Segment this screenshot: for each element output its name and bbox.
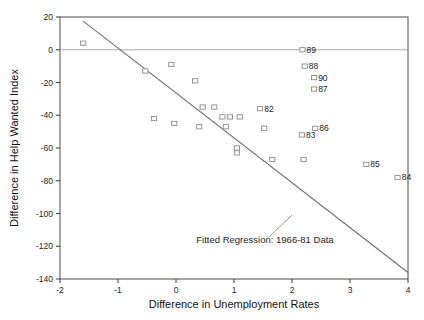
y-tick-label: -100	[36, 209, 53, 219]
y-tick-label: 0	[48, 45, 53, 55]
y-tick-label: -40	[41, 110, 54, 120]
data-point-marker	[220, 115, 225, 119]
data-point-label: 87	[318, 84, 328, 94]
data-point-marker	[169, 62, 174, 66]
y-tick-label: -60	[41, 143, 54, 153]
x-tick-label: 4	[406, 285, 411, 295]
data-point-label: 85	[370, 159, 380, 169]
data-point-marker	[299, 133, 304, 137]
data-point-marker	[237, 115, 242, 119]
x-tick-label: -1	[114, 285, 122, 295]
data-point-marker	[302, 64, 307, 68]
chart-background	[0, 0, 424, 320]
data-point-label: 90	[318, 73, 328, 83]
data-point-marker	[262, 126, 267, 130]
y-tick-label: -120	[36, 241, 53, 251]
data-point-label: 82	[264, 104, 274, 114]
x-tick-label: 0	[174, 285, 179, 295]
data-point-marker	[81, 41, 86, 45]
data-point-marker	[364, 162, 369, 166]
data-point-marker	[301, 157, 306, 161]
chart-canvas: 200-20-40-60-80-100-120-140 -2-101234 82…	[0, 0, 424, 320]
data-point-marker	[193, 79, 198, 83]
data-point-label: 86	[319, 123, 329, 133]
data-point-marker	[234, 151, 239, 155]
data-point-marker	[200, 105, 205, 109]
data-point-marker	[197, 125, 202, 129]
y-tick-label: -20	[41, 78, 54, 88]
x-tick-label: 1	[232, 285, 237, 295]
y-tick-label: 20	[44, 12, 54, 22]
data-point-marker	[223, 125, 228, 129]
data-point-label: 83	[306, 130, 316, 140]
data-point-marker	[143, 69, 148, 73]
data-point-marker	[234, 146, 239, 150]
data-point-marker	[172, 121, 177, 125]
annotation-text: Fitted Regression: 1966-81 Data	[196, 234, 334, 245]
data-point-label: 88	[309, 61, 319, 71]
data-point-marker	[300, 48, 305, 52]
x-tick-label: 3	[348, 285, 353, 295]
data-point-marker	[227, 115, 232, 119]
data-point-label: 84	[402, 172, 412, 182]
data-point-marker	[151, 116, 156, 120]
data-point-marker	[395, 175, 400, 179]
data-point-label: 89	[307, 45, 317, 55]
x-axis-title: Difference in Unemployment Rates	[149, 298, 320, 310]
y-axis-title: Difference in Help Wanted Index	[8, 69, 20, 227]
x-tick-label: -2	[56, 285, 64, 295]
data-point-marker	[258, 107, 263, 111]
scatter-chart-figure: 200-20-40-60-80-100-120-140 -2-101234 82…	[0, 0, 424, 320]
x-tick-label: 2	[290, 285, 295, 295]
y-tick-label: -140	[36, 274, 53, 284]
y-tick-label: -80	[41, 176, 54, 186]
data-point-marker	[311, 87, 316, 91]
data-point-marker	[311, 75, 316, 79]
data-point-marker	[270, 157, 275, 161]
data-point-marker	[212, 105, 217, 109]
